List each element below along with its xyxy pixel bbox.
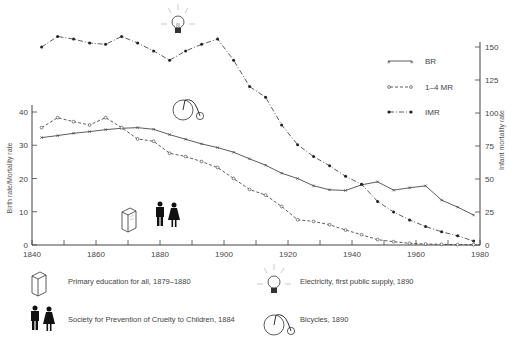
- note-education: Primary education for all, 1879–1880: [68, 277, 191, 286]
- x-tick-label: 1900: [215, 250, 233, 259]
- man-woman-icon-note: [31, 306, 55, 332]
- note-electricity: Electricity, first public supply, 1890: [300, 277, 414, 286]
- svg-text:BR: BR: [425, 57, 436, 66]
- x-axis: 18401860188019001920194019601980: [23, 240, 489, 259]
- bicycle-icon: [173, 100, 204, 120]
- legend: × × BR 1–4 MR IMR: [387, 57, 453, 117]
- series-imr: [40, 35, 475, 243]
- light-bulb-icon: [161, 4, 195, 33]
- left-tick-label: 10: [19, 208, 28, 217]
- book-icon-note: [32, 272, 46, 296]
- svg-text:IMR: IMR: [425, 108, 440, 117]
- series-br: [40, 126, 475, 216]
- note-bicycles: Bicycles, 1890: [300, 315, 348, 324]
- left-axis: 010203040 Birth rate/Mortality rate: [6, 105, 37, 250]
- right-axis-title: Infant mortality rate: [498, 110, 506, 170]
- legend-item-imr: IMR: [387, 108, 439, 117]
- left-tick-label: 30: [19, 141, 28, 150]
- right-tick-label: 50: [485, 175, 494, 184]
- right-axis: 0255075100125150 Infant mortality rate: [475, 42, 506, 250]
- legend-item-br: × × BR: [387, 57, 436, 66]
- legend-item-1-4-mr: 1–4 MR: [388, 83, 454, 92]
- right-tick-label: 125: [485, 76, 499, 85]
- x-tick-label: 1840: [23, 250, 41, 259]
- x-tick-label: 1920: [279, 250, 297, 259]
- left-axis-title: Birth rate/Mortality rate: [6, 142, 14, 213]
- x-tick-label: 1980: [471, 250, 489, 259]
- svg-text:×: ×: [387, 59, 391, 65]
- right-tick-label: 0: [485, 241, 490, 250]
- x-tick-label: 1960: [407, 250, 425, 259]
- right-tick-label: 100: [485, 109, 499, 118]
- chart: 010203040 Birth rate/Mortality rate 0255…: [0, 0, 513, 348]
- right-tick-label: 75: [485, 142, 494, 151]
- right-tick-label: 150: [485, 43, 499, 52]
- svg-text:×: ×: [410, 59, 414, 65]
- x-tick-label: 1880: [151, 250, 169, 259]
- note-cruelty: Society for Prevention of Cruelty to Chi…: [68, 315, 235, 324]
- series-1-4-mr: [40, 116, 475, 246]
- light-bulb-icon-note: [257, 264, 291, 293]
- man-woman-icon: [156, 202, 180, 228]
- x-tick-label: 1860: [87, 250, 105, 259]
- bicycle-icon-note: [264, 315, 295, 335]
- book-icon: [122, 208, 136, 232]
- left-tick-label: 20: [19, 175, 28, 184]
- left-tick-label: 0: [24, 241, 29, 250]
- left-tick-label: 40: [19, 108, 28, 117]
- svg-text:1–4 MR: 1–4 MR: [425, 83, 453, 92]
- right-tick-label: 25: [485, 208, 494, 217]
- x-tick-label: 1940: [343, 250, 361, 259]
